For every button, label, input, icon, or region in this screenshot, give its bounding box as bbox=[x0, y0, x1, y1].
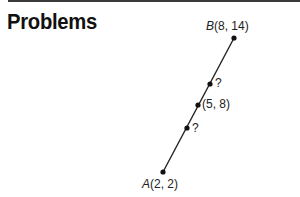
point-upper-unknown-dot bbox=[207, 81, 212, 86]
label-midpoint: (5, 8) bbox=[202, 97, 230, 111]
label-point-b: B(8, 14) bbox=[206, 19, 249, 33]
point-a-dot bbox=[160, 169, 165, 174]
point-b-dot bbox=[231, 35, 236, 40]
label-upper-unknown: ? bbox=[215, 76, 222, 90]
point-lower-unknown-dot bbox=[184, 125, 189, 130]
label-lower-unknown: ? bbox=[192, 121, 199, 135]
point-midpoint-dot bbox=[195, 102, 200, 107]
segment-diagram bbox=[0, 0, 300, 197]
label-point-a: A(2, 2) bbox=[142, 177, 178, 191]
